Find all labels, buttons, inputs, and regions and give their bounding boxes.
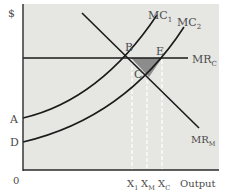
x-axis-label: Output: [180, 178, 216, 189]
economics-diagram: $ 0 A D B E C MC1 MC2 MRC MRM X1 XM XC O…: [0, 0, 226, 195]
xc-tick-label: XC: [158, 178, 170, 192]
point-e-label: E: [156, 45, 164, 58]
origin-label: 0: [13, 175, 19, 186]
point-b-label: B: [125, 41, 133, 54]
point-a-label: A: [9, 113, 19, 126]
point-c-label: C: [134, 68, 142, 81]
point-d-label: D: [10, 136, 19, 149]
x1-tick-label: X1: [127, 178, 138, 192]
y-axis-label: $: [8, 7, 15, 20]
xm-tick-label: XM: [141, 178, 155, 192]
